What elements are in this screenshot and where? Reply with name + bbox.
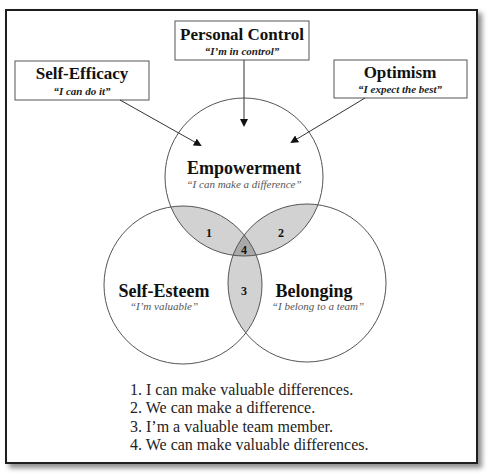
empowerment-title: Empowerment <box>187 158 301 178</box>
region-legend: 1. I can make valuable differences. 2. W… <box>130 381 368 454</box>
legend-item: 3. I’m a valuable team member. <box>130 418 368 436</box>
optimism-subtitle: “I expect the best” <box>358 83 443 95</box>
self-esteem-subtitle: “I’m valuable” <box>130 300 198 312</box>
region-3-label: 3 <box>241 284 247 298</box>
empowerment-subtitle: “I can make a difference” <box>186 178 301 190</box>
optimism-title: Optimism <box>364 63 437 82</box>
region-1-label: 1 <box>206 226 212 240</box>
legend-item: 2. We can make a difference. <box>130 399 368 417</box>
self-efficacy-subtitle: “I can do it” <box>53 85 111 97</box>
optimism-box: Optimism “I expect the best” <box>334 60 467 98</box>
personal-control-subtitle: “I’m in control” <box>205 45 280 57</box>
self-efficacy-arrow-icon <box>120 100 200 145</box>
region-2-label: 2 <box>278 226 284 240</box>
optimism-arrow-icon <box>292 98 365 142</box>
legend-item: 4. We can make valuable differences. <box>130 436 368 454</box>
self-efficacy-box: Self-Efficacy “I can do it” <box>15 61 149 100</box>
personal-control-box: Personal Control “I’m in control” <box>175 21 309 60</box>
belonging-title: Belonging <box>275 281 352 301</box>
legend-item: 1. I can make valuable differences. <box>130 381 368 399</box>
region-4-label: 4 <box>241 243 247 257</box>
personal-control-title: Personal Control <box>180 25 304 44</box>
self-esteem-title: Self-Esteem <box>119 281 210 301</box>
belonging-subtitle: “I belong to a team” <box>272 300 364 312</box>
self-efficacy-title: Self-Efficacy <box>36 64 129 83</box>
